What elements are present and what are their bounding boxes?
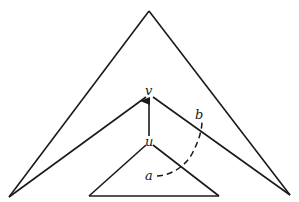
outer-left-edge bbox=[9, 11, 149, 197]
label-b: b bbox=[195, 107, 203, 122]
v-left-branch bbox=[9, 97, 146, 197]
inner-subtree bbox=[89, 145, 219, 196]
u-left-edge bbox=[89, 145, 146, 196]
label-u: u bbox=[145, 134, 153, 149]
diagram-canvas: v u b a bbox=[0, 0, 299, 202]
label-a: a bbox=[145, 168, 153, 183]
dashed-path-a-to-b bbox=[157, 121, 202, 176]
u-right-edge bbox=[153, 145, 219, 196]
outer-right-edge bbox=[149, 11, 290, 195]
v-right-branch bbox=[153, 97, 290, 195]
label-v: v bbox=[145, 83, 153, 98]
